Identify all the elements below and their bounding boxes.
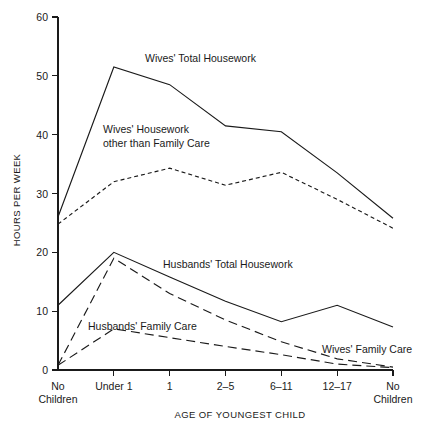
y-tick-label: 10 bbox=[36, 305, 48, 317]
x-tick-label: No bbox=[51, 380, 65, 392]
x-tick-label: 6–11 bbox=[270, 380, 293, 392]
x-axis-title: AGE OF YOUNGEST CHILD bbox=[174, 409, 305, 420]
axes-group bbox=[58, 17, 393, 370]
x-tick-label: 12–17 bbox=[323, 380, 352, 392]
series-label-wives-housework-other-than-family-care-line2: other than Family Care bbox=[103, 137, 210, 149]
chart-figure: 0102030405060 NoChildrenUnder 112–56–111… bbox=[0, 0, 428, 433]
series-label-husbands-family-care: Husbands' Family Care bbox=[88, 320, 197, 332]
series-label-wives-total-housework: Wives' Total Housework bbox=[145, 52, 257, 64]
x-tick-label: 2–5 bbox=[217, 380, 235, 392]
y-tick-label: 0 bbox=[42, 364, 48, 376]
line-chart-canvas: 0102030405060 NoChildrenUnder 112–56–111… bbox=[0, 0, 428, 433]
y-tick-label: 30 bbox=[36, 188, 48, 200]
x-tick-label: No bbox=[386, 380, 400, 392]
series-label-group: Wives' Total HouseworkWives' Houseworkot… bbox=[88, 52, 412, 355]
y-tick-label: 50 bbox=[36, 70, 48, 82]
y-tick-label: 20 bbox=[36, 246, 48, 258]
series-label-wives-family-care: Wives' Family Care bbox=[322, 343, 412, 355]
x-tick-label-line2: Children bbox=[373, 393, 412, 405]
x-tick-label-line2: Children bbox=[38, 393, 77, 405]
y-tick-label: 40 bbox=[36, 129, 48, 141]
x-tick-group: NoChildrenUnder 112–56–1112–17NoChildren bbox=[38, 370, 412, 405]
series-label-husbands-total-housework: Husbands' Total Housework bbox=[163, 258, 293, 270]
y-axis-title: HOURS PER WEEK bbox=[11, 153, 22, 246]
series-label-wives-housework-other-than-family-care-line1: Wives' Housework bbox=[103, 123, 190, 135]
x-tick-label: 1 bbox=[167, 380, 173, 392]
x-tick-label: Under 1 bbox=[95, 380, 133, 392]
y-tick-label: 60 bbox=[36, 11, 48, 23]
y-tick-group: 0102030405060 bbox=[36, 11, 58, 376]
